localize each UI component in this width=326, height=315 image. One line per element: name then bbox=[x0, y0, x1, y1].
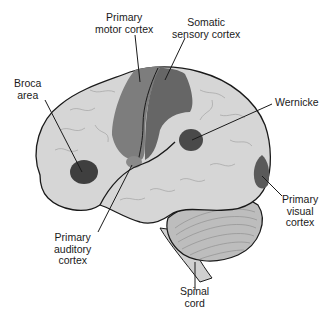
broca-area-spot bbox=[70, 160, 98, 184]
label-wernicke: Wernicke bbox=[275, 97, 319, 109]
auditory-cortex-spot bbox=[126, 156, 142, 168]
label-primary-auditory-cortex: Primary auditory cortex bbox=[54, 232, 91, 267]
label-somatic-sensory-cortex: Somatic sensory cortex bbox=[172, 17, 240, 40]
label-spinal-cord: Spinal cord bbox=[180, 286, 209, 309]
label-primary-motor-cortex: Primary motor cortex bbox=[95, 12, 153, 35]
label-primary-visual-cortex: Primary visual cortex bbox=[282, 194, 318, 229]
wernicke-area-spot bbox=[179, 129, 203, 151]
brain-diagram bbox=[0, 0, 326, 315]
label-broca-area: Broca area bbox=[14, 78, 41, 101]
